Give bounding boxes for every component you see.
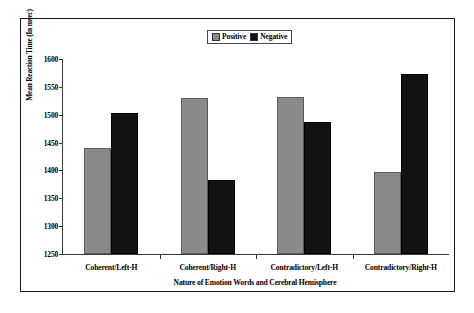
x-axis-title: Nature of Emotion Words and Cerebral Hem… — [62, 278, 448, 287]
plot-area: 12501300135014001450150015501600Coherent… — [62, 59, 449, 255]
bar-positive — [277, 97, 304, 254]
legend-square-icon — [212, 33, 220, 41]
bar-positive — [181, 98, 208, 254]
bar-positive — [84, 148, 111, 254]
bar-group: Contradictory/Left-H — [256, 59, 353, 254]
legend-item-negative: Negative — [250, 33, 287, 41]
bar-negative — [304, 122, 331, 254]
bar-group: Coherent/Right-H — [160, 59, 257, 254]
bar-group: Coherent/Left-H — [63, 59, 160, 254]
y-axis-tick-mark — [59, 254, 63, 255]
chart-legend: PositiveNegative — [207, 30, 292, 44]
legend-label: Negative — [260, 33, 287, 41]
bar-positive — [374, 172, 401, 254]
bar-negative — [401, 74, 428, 254]
x-axis-category-label: Contradictory/Right-H — [365, 263, 437, 272]
x-axis-category-label: Contradictory/Left-H — [271, 263, 338, 272]
x-axis-category-label: Coherent/Left-H — [85, 263, 137, 272]
x-axis-category-label: Coherent/Right-H — [179, 263, 236, 272]
x-axis-tick-mark — [256, 254, 257, 259]
bar-negative — [111, 113, 138, 255]
legend-item-positive: Positive — [212, 33, 246, 41]
bar-negative — [208, 180, 235, 254]
x-axis-tick-mark — [160, 254, 161, 259]
y-axis-title-wrap: Mean Reaction Time (In msec) — [31, 90, 43, 220]
y-axis-title: Mean Reaction Time (In msec) — [25, 0, 34, 150]
chart-figure: PositiveNegative Mean Reaction Time (In … — [0, 0, 474, 313]
bar-group: Contradictory/Right-H — [353, 59, 450, 254]
x-axis-tick-mark — [353, 254, 354, 259]
legend-square-icon — [250, 33, 258, 41]
legend-label: Positive — [222, 33, 246, 41]
